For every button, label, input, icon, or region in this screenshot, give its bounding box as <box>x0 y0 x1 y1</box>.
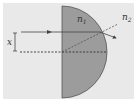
x-label: x <box>7 37 12 47</box>
diagram-panel: x n1 n2 <box>0 0 137 106</box>
lens-diagram: x n1 n2 <box>0 0 137 106</box>
